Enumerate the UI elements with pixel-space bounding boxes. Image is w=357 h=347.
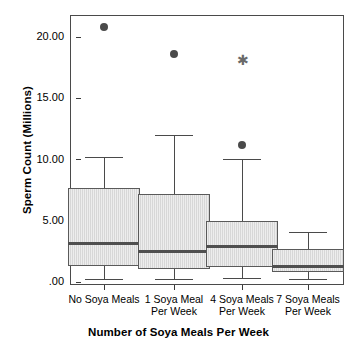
outlier-point xyxy=(170,50,178,58)
box-iqr xyxy=(138,194,210,269)
x-tick-label-3: 7 Soya Meals Per Week xyxy=(260,293,356,317)
upper-whisker-line xyxy=(308,232,309,249)
box-iqr xyxy=(206,221,278,267)
y-tick-label: 10.00 xyxy=(18,154,64,165)
x-tick-mark xyxy=(174,285,175,290)
lower-whisker-line xyxy=(308,272,309,279)
lower-whisker-cap xyxy=(85,279,123,280)
box-iqr xyxy=(68,188,140,266)
extreme-outlier-marker: ✱ xyxy=(237,56,249,64)
y-tick-mark xyxy=(76,282,81,283)
x-axis-title: Number of Soya Meals Per Week xyxy=(0,326,357,338)
y-tick-mark xyxy=(76,37,81,38)
box-iqr xyxy=(272,249,344,272)
y-tick-label: 20.00 xyxy=(18,31,64,42)
median-line xyxy=(68,242,140,245)
lower-whisker-line xyxy=(174,269,175,279)
x-tick-mark xyxy=(308,285,309,290)
y-tick-mark xyxy=(76,159,81,160)
y-tick-label: .00 xyxy=(18,276,64,287)
upper-whisker-line xyxy=(174,135,175,194)
upper-whisker-cap xyxy=(289,232,327,233)
lower-whisker-cap xyxy=(289,279,327,280)
upper-whisker-line xyxy=(104,157,105,188)
median-line xyxy=(138,250,210,253)
lower-whisker-cap xyxy=(155,279,193,280)
x-tick-mark xyxy=(242,285,243,290)
lower-whisker-cap xyxy=(223,278,261,279)
y-tick-label: 15.00 xyxy=(18,92,64,103)
y-axis-title: Sperm Count (Millions) xyxy=(21,35,33,265)
upper-whisker-cap xyxy=(85,157,123,158)
x-tick-mark xyxy=(104,285,105,290)
median-line xyxy=(272,265,344,268)
y-tick-label: 5.00 xyxy=(18,215,64,226)
lower-whisker-line xyxy=(242,267,243,279)
upper-whisker-cap xyxy=(223,159,261,160)
lower-whisker-line xyxy=(104,266,105,279)
median-line xyxy=(206,245,278,248)
boxplot-chart: Sperm Count (Millions) .005.0010.0015.00… xyxy=(0,0,357,347)
upper-whisker-line xyxy=(242,159,243,221)
y-tick-mark xyxy=(76,98,81,99)
upper-whisker-cap xyxy=(155,135,193,136)
